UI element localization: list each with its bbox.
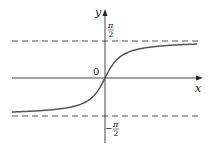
- upper-asymptote-label: π 2: [107, 21, 114, 39]
- lower-asymptote-label: − π 2: [105, 120, 119, 138]
- x-axis-label: x: [195, 82, 202, 95]
- svg-text:π: π: [112, 120, 119, 129]
- svg-text:−: −: [105, 123, 113, 133]
- svg-text:2: 2: [109, 30, 114, 39]
- arctan-graph: y x 0 π 2 − π 2: [0, 0, 210, 154]
- origin-label: 0: [93, 66, 99, 77]
- y-axis-label: y: [94, 6, 102, 19]
- y-axis-arrow-icon: [103, 9, 108, 16]
- x-axis-arrow-icon: [196, 76, 203, 81]
- svg-text:π: π: [107, 21, 114, 30]
- svg-text:2: 2: [114, 129, 119, 138]
